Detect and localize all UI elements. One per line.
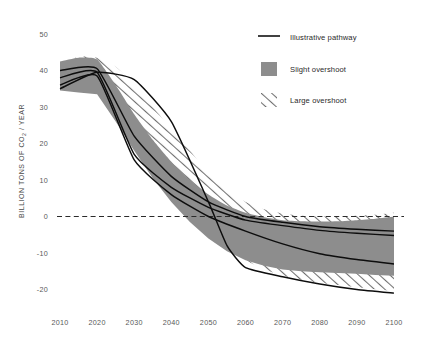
chart-canvas: 50403020100-10-20 2010202020302040205020… xyxy=(0,0,423,347)
legend-label: Slight overshoot xyxy=(290,65,347,74)
y-tick-label: 10 xyxy=(39,176,48,185)
y-tick-label: 50 xyxy=(39,30,48,39)
emissions-pathway-chart: 50403020100-10-20 2010202020302040205020… xyxy=(0,0,423,347)
x-tick-label: 2090 xyxy=(348,318,365,327)
legend-label: Illustrative pathway xyxy=(290,33,357,42)
x-tick-label: 2010 xyxy=(51,318,68,327)
x-tick-label: 2020 xyxy=(89,318,106,327)
x-tick-label: 2100 xyxy=(385,318,402,327)
y-tick-label: -10 xyxy=(37,249,48,258)
x-tick-label: 2080 xyxy=(311,318,328,327)
chart-background xyxy=(0,0,423,347)
y-tick-label: 0 xyxy=(44,212,48,221)
legend-color-swatch xyxy=(261,62,277,76)
x-tick-label: 2030 xyxy=(126,318,143,327)
x-tick-label: 2070 xyxy=(274,318,291,327)
x-tick-label: 2060 xyxy=(237,318,254,327)
y-tick-label: -20 xyxy=(37,285,48,294)
legend-hatched-swatch xyxy=(261,93,277,107)
y-tick-label: 30 xyxy=(39,103,48,112)
x-tick-label: 2040 xyxy=(163,318,180,327)
y-tick-label: 40 xyxy=(39,66,48,75)
x-tick-label: 2050 xyxy=(200,318,217,327)
y-tick-label: 20 xyxy=(39,139,48,148)
legend-label: Large overshoot xyxy=(290,96,347,105)
